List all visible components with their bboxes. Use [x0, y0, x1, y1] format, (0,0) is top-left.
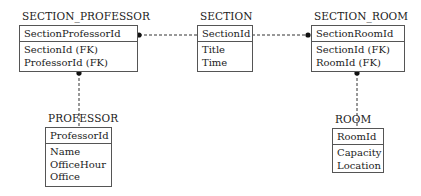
attribute: Title [202, 44, 248, 57]
entity-room[interactable]: RoomId Capacity Location [332, 128, 384, 173]
attribute: ProfessorId (FK) [24, 57, 133, 70]
attribute: OfficeHour [50, 159, 107, 172]
many-end-dot-icon [305, 32, 310, 37]
entity-title-section-professor: SECTION_PROFESSOR [22, 10, 150, 22]
attribute-list: Capacity Location [333, 145, 383, 174]
attribute: Capacity [337, 147, 379, 160]
attribute-list: SectionId (FK) ProfessorId (FK) [20, 42, 137, 71]
attribute: Office [50, 171, 107, 184]
entity-section-room[interactable]: SectionRoomId SectionId (FK) RoomId (FK) [311, 25, 405, 72]
entity-title-professor: PROFESSOR [48, 112, 118, 124]
attribute: Name [50, 146, 107, 159]
attribute-list: Name OfficeHour Office [46, 144, 111, 186]
attribute: Location [337, 160, 379, 173]
attribute: Time [202, 57, 248, 70]
primary-key: SectionId [198, 26, 252, 42]
attribute: RoomId (FK) [316, 57, 400, 70]
primary-key: ProfessorId [46, 128, 111, 144]
entity-professor[interactable]: ProfessorId Name OfficeHour Office [45, 127, 112, 187]
primary-key: SectionProfessorId [20, 26, 137, 42]
primary-key: SectionRoomId [312, 26, 404, 42]
attribute: SectionId (FK) [24, 44, 133, 57]
primary-key: RoomId [333, 129, 383, 145]
entity-title-section: SECTION [200, 10, 253, 22]
attribute: SectionId (FK) [316, 44, 400, 57]
attribute-list: SectionId (FK) RoomId (FK) [312, 42, 404, 71]
entity-title-room: ROOM [335, 113, 371, 125]
entity-section-professor[interactable]: SectionProfessorId SectionId (FK) Profes… [19, 25, 138, 72]
entity-title-section-room: SECTION_ROOM [314, 10, 408, 22]
attribute-list: Title Time [198, 42, 252, 71]
entity-section[interactable]: SectionId Title Time [197, 25, 253, 72]
